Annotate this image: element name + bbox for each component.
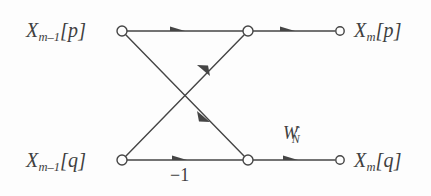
arrowhead-in-q-to-mid-p [197,65,210,76]
twiddle-factor-label: WrN [283,123,300,145]
gain-label-minus-one: −1 [170,166,190,184]
arrowhead-group [170,26,298,160]
output-label-bottom-index: [q] [375,149,401,171]
output-label-top: Xm[p] [354,20,402,44]
output-label-bottom-base: X [354,149,366,171]
arrowhead-in-p-to-mid-q [197,111,210,122]
output-label-bottom: Xm[q] [354,150,402,174]
butterfly-diagram: Xm–1[p] Xm–1[q] Xm[p] Xm[q] WrN −1 [0,0,431,196]
input-label-top-base: X [26,19,38,41]
input-label-top-subscript: m–1 [38,30,60,44]
node-group [117,26,344,165]
node-output-top[interactable] [336,27,344,35]
node-sum-top[interactable] [243,26,253,36]
output-label-top-index: [p] [375,19,401,41]
node-input-bottom[interactable] [117,155,127,165]
node-output-bottom[interactable] [336,156,344,164]
input-label-top-index: [p] [60,19,86,41]
node-sum-bottom[interactable] [243,155,253,165]
twiddle-subscript: N [292,132,300,146]
input-label-top: Xm–1[p] [26,20,86,44]
input-label-bottom-index: [q] [60,149,86,171]
node-input-top[interactable] [117,26,127,36]
input-label-bottom: Xm–1[q] [26,150,86,174]
input-label-bottom-subscript: m–1 [38,160,60,174]
output-label-top-base: X [354,19,366,41]
edge-group [126,31,335,160]
input-label-bottom-base: X [26,149,38,171]
